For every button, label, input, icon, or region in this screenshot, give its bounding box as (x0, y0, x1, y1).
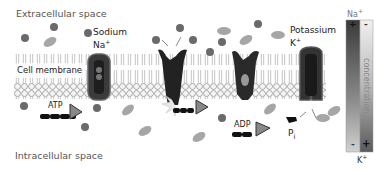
k-top-sign: - (364, 19, 368, 29)
adp-molecule (232, 122, 270, 137)
gradient-bottom-label: K+ (357, 153, 367, 165)
pump-state-4 (300, 47, 322, 100)
concentration-label: concentration (362, 58, 371, 113)
phosphate-molecule (286, 117, 297, 123)
sodium-potassium-pump-diagram (0, 0, 389, 175)
k-bottom-sign: + (362, 138, 370, 149)
gradient-top-label: Na+ (347, 7, 363, 19)
cell-membrane-label: Cell membrane (17, 65, 82, 75)
na-top-sign: + (349, 19, 357, 29)
pump-state-1 (88, 54, 110, 100)
na-bottom-sign: - (351, 139, 355, 149)
atp-molecule (40, 104, 82, 119)
